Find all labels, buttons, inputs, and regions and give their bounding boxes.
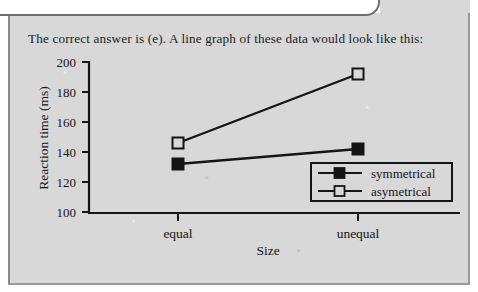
x-category-label-unequal: unequal xyxy=(337,226,380,241)
page-left-margin xyxy=(0,16,8,292)
series-asymetrical xyxy=(173,69,364,149)
y-tick-label-140: 140 xyxy=(57,145,77,160)
page-right-margin xyxy=(470,0,478,292)
y-tick-label-120: 120 xyxy=(57,175,77,190)
series-symmetrical-marker-equal xyxy=(173,159,184,170)
line-chart: 200 180 160 140 120 100 Reaction time (m… xyxy=(0,0,478,292)
y-tick-label-160: 160 xyxy=(57,115,77,130)
page-corner-cutout xyxy=(0,0,380,16)
y-tick-label-200: 200 xyxy=(57,55,77,70)
y-tick-label-180: 180 xyxy=(57,85,77,100)
chart-legend: symmetrical asymetrical xyxy=(311,163,452,201)
y-axis-tick-labels: 200 180 160 140 120 100 xyxy=(57,55,77,220)
x-category-label-equal: equal xyxy=(163,226,192,241)
legend-label-asymetrical: asymetrical xyxy=(371,184,431,199)
screenshot-page: The correct answer is (e). A line graph … xyxy=(0,0,478,292)
series-asymetrical-line xyxy=(178,74,358,143)
legend-marker-open-square-icon xyxy=(335,186,345,196)
x-axis-title: Size xyxy=(256,243,279,258)
series-symmetrical-line xyxy=(178,149,358,164)
y-axis-title: Reaction time (ms) xyxy=(36,86,51,189)
legend-label-symmetrical: symmetrical xyxy=(371,166,436,181)
series-symmetrical-marker-unequal xyxy=(353,144,364,155)
legend-marker-filled-square-icon xyxy=(335,168,345,178)
page-bottom-margin xyxy=(0,285,478,292)
y-tick-label-100: 100 xyxy=(57,205,77,220)
series-asymetrical-marker-unequal xyxy=(353,69,364,80)
series-asymetrical-marker-equal xyxy=(173,138,184,149)
page-top-filler xyxy=(380,0,478,13)
